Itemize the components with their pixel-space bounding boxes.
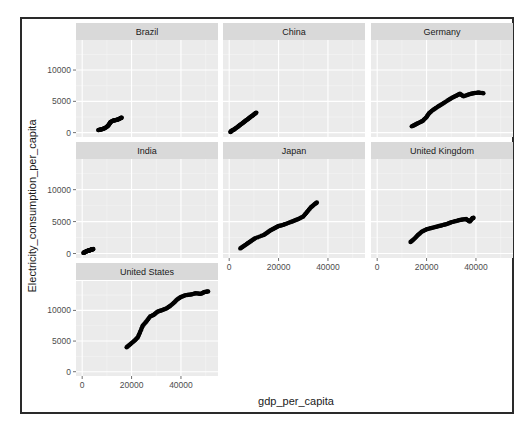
y-tick-label: 0 [66,249,71,259]
facet-label-united-kingdom: United Kingdom [410,146,474,156]
x-tick-label: 20000 [267,262,291,272]
data-point [254,110,258,114]
y-tick-label: 0 [66,128,71,138]
facet-label-china: China [282,27,306,37]
data-point [481,91,485,95]
x-tick-label: 40000 [169,380,193,390]
x-tick-label: 0 [227,262,232,272]
x-tick-label: 20000 [415,262,439,272]
y-tick-label: 5000 [52,336,71,346]
facet-label-india: India [137,146,157,156]
x-tick-label: 40000 [316,262,340,272]
y-tick-label: 10000 [47,65,71,75]
y-tick-label: 0 [66,367,71,377]
x-axis-title: gdp_per_capita [258,395,335,407]
y-tick-label: 10000 [47,185,71,195]
facet-label-germany: Germany [423,27,461,37]
data-point [206,289,210,293]
y-tick-label: 10000 [47,305,71,315]
x-tick-label: 0 [375,262,380,272]
x-tick-label: 40000 [464,262,488,272]
data-point [471,216,475,220]
data-point [315,200,319,204]
y-axis-title: Electricity_consumption_per_capita [26,119,38,293]
faceted-scatter-plot: Brazil0500010000ChinaGermanyIndia0500010… [0,0,527,431]
data-point [91,247,95,251]
facet-label-brazil: Brazil [136,27,159,37]
x-tick-label: 0 [80,380,85,390]
y-tick-label: 5000 [52,96,71,106]
data-point [119,115,123,119]
x-tick-label: 20000 [120,380,144,390]
y-tick-label: 5000 [52,217,71,227]
facet-label-japan: Japan [282,146,307,156]
facet-label-united-states: United States [120,267,175,277]
